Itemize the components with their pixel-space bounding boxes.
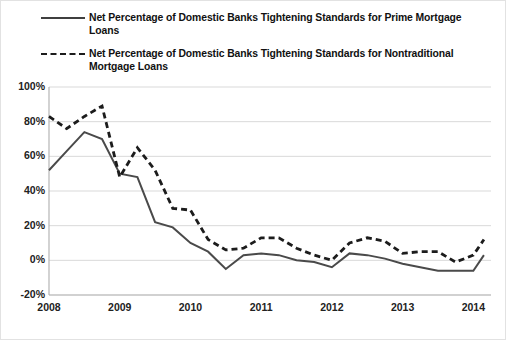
x-axis-tick-label: 2010 [179,301,202,313]
y-axis-tick-label: 40% [1,184,45,196]
y-axis-tick-label: 60% [1,149,45,161]
x-axis-tick-label: 2013 [391,301,414,313]
chart-container: Net Percentage of Domestic Banks Tighten… [0,0,506,340]
x-axis-tick-label: 2008 [37,301,60,313]
x-axis-tick-label: 2011 [250,301,273,313]
x-axis-tick-label: 2014 [462,301,485,313]
chart-svg [1,1,507,341]
series-layer [49,106,484,271]
y-axis-tick-label: 100% [1,80,45,92]
y-axis-tick-label: 80% [1,115,45,127]
y-axis-tick-label: 20% [1,219,45,231]
x-axis-tick-label: 2012 [320,301,343,313]
y-axis-tick-label: -20% [1,288,45,300]
gridlines [49,87,491,295]
series-line-nontraditional [49,106,484,262]
y-axis-tick-label: 0% [1,253,45,265]
x-axis-tick-label: 2009 [108,301,131,313]
plot-area: 100%80%60%40%20%0%-20% 20082009201020112… [1,1,507,341]
